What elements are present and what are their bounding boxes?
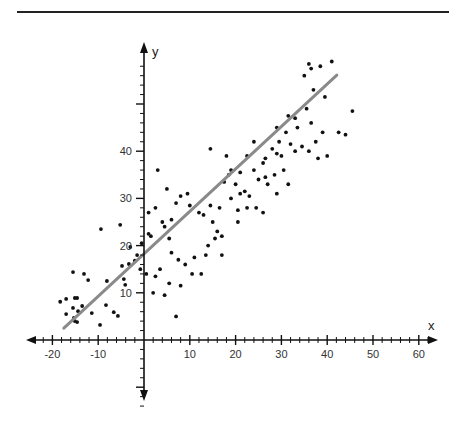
data-point	[309, 121, 313, 125]
y-tick-label: 30	[120, 192, 132, 204]
y-tick-label: 20	[120, 240, 132, 252]
x-tick-label: 20	[229, 348, 241, 360]
data-point	[140, 241, 144, 245]
data-point	[58, 300, 62, 304]
data-point	[90, 311, 94, 315]
data-point	[337, 130, 341, 134]
data-point	[167, 237, 171, 241]
data-point	[252, 168, 256, 172]
data-point	[238, 171, 242, 175]
data-point	[71, 270, 75, 274]
data-point	[186, 192, 190, 196]
data-point	[213, 237, 217, 241]
data-point	[188, 204, 192, 208]
data-point	[144, 272, 148, 276]
data-point	[158, 267, 162, 271]
data-point	[64, 297, 68, 301]
data-point	[211, 220, 215, 224]
data-point	[138, 267, 142, 271]
data-point	[80, 304, 84, 308]
data-point	[296, 126, 300, 130]
data-point	[170, 218, 174, 222]
data-point	[156, 168, 160, 172]
data-point	[167, 281, 171, 285]
data-point	[160, 220, 164, 224]
x-tick-label: 30	[275, 348, 287, 360]
data-point	[325, 154, 329, 158]
data-point	[190, 272, 194, 276]
data-point	[179, 194, 183, 198]
data-point	[202, 213, 206, 217]
y-axis-label: y	[152, 44, 159, 59]
data-point	[225, 154, 229, 158]
data-point	[266, 182, 270, 186]
data-point	[86, 278, 90, 282]
x-tick-label: 40	[321, 348, 333, 360]
data-point	[209, 147, 213, 151]
data-point	[300, 145, 304, 149]
data-point	[179, 284, 183, 288]
data-point	[209, 204, 213, 208]
data-point	[286, 182, 290, 186]
data-point	[154, 206, 158, 210]
data-point	[305, 107, 309, 111]
data-point	[192, 256, 196, 260]
data-point	[170, 251, 174, 255]
y-axis-down-arrow-icon	[140, 390, 148, 401]
x-axis-left-arrow-icon	[26, 336, 36, 344]
data-point	[218, 206, 222, 210]
data-point	[122, 277, 126, 281]
data-point	[199, 272, 203, 276]
x-tick-label: 10	[184, 348, 196, 360]
data-point	[120, 264, 124, 268]
data-point	[302, 74, 306, 78]
data-point	[147, 232, 151, 236]
data-point	[174, 201, 178, 205]
data-point	[236, 208, 240, 212]
data-point	[229, 197, 233, 201]
y-tick-label: 40	[120, 145, 132, 157]
data-point	[252, 140, 256, 144]
data-point	[99, 227, 103, 231]
data-point	[261, 161, 265, 165]
data-point	[318, 64, 322, 68]
regression-line	[64, 75, 337, 328]
data-point	[307, 149, 311, 153]
data-point	[270, 147, 274, 151]
data-point	[314, 140, 318, 144]
data-point	[82, 272, 86, 276]
x-tick-label: 50	[367, 348, 379, 360]
x-tick-label: -20	[44, 348, 60, 360]
data-point	[247, 194, 251, 198]
data-point	[183, 263, 187, 267]
data-point	[344, 133, 348, 137]
data-point	[163, 293, 167, 297]
data-point	[289, 142, 293, 146]
axes: -20-1010203040506010203040xy	[26, 42, 438, 406]
data-point	[316, 156, 320, 160]
data-point	[118, 223, 122, 227]
data-point	[254, 206, 258, 210]
data-point	[64, 312, 68, 316]
data-point	[243, 189, 247, 193]
data-point	[154, 274, 158, 278]
data-point	[234, 182, 238, 186]
x-axis-right-arrow-icon	[428, 336, 438, 344]
x-tick-label: 60	[413, 348, 425, 360]
y-tick-label: 10	[120, 287, 132, 299]
data-point	[112, 310, 116, 314]
data-point	[236, 220, 240, 224]
data-point	[105, 279, 109, 283]
data-point	[312, 88, 316, 92]
data-point	[263, 156, 267, 160]
data-point	[293, 149, 297, 153]
data-point	[165, 187, 169, 191]
data-point	[277, 140, 281, 144]
data-point	[176, 258, 180, 262]
scatter-chart: -20-1010203040506010203040xy	[0, 0, 462, 421]
data-point	[263, 175, 267, 179]
data-point	[323, 95, 327, 99]
data-point	[257, 178, 261, 182]
data-point	[116, 314, 120, 318]
data-point	[204, 253, 208, 257]
